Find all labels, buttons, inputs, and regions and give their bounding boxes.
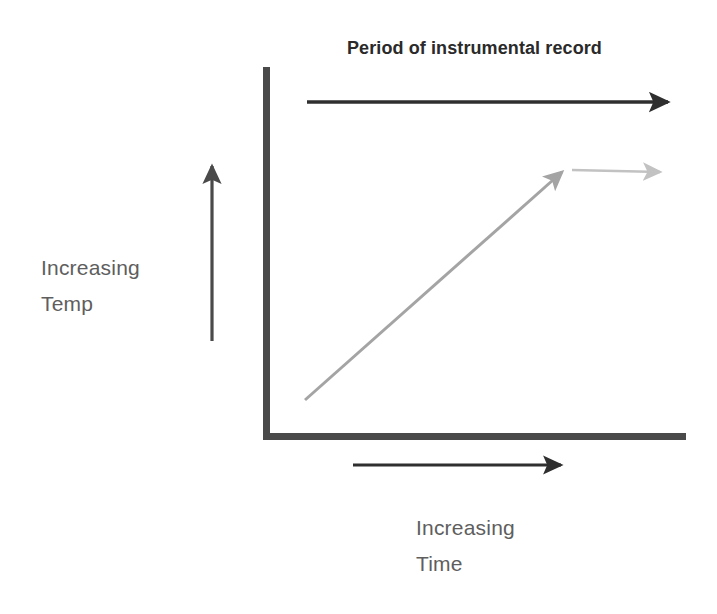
x-axis-label: Increasing Time: [416, 510, 515, 582]
projection-arrow: [572, 170, 660, 172]
chart-title: Period of instrumental record: [347, 38, 602, 59]
temperature-trend-arrow: [305, 172, 562, 400]
temperature-trend-figure: Period of instrumental record Increasing…: [0, 0, 717, 614]
y-axis-label: Increasing Temp: [41, 250, 140, 322]
